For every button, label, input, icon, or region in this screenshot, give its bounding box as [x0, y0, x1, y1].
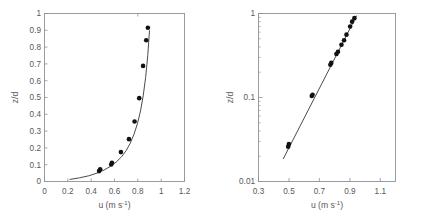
- y-axis-title-right: z/d: [225, 92, 235, 104]
- y-tick-label: 0.6: [30, 77, 42, 86]
- x-axis-title-close: ): [340, 200, 343, 210]
- y-tick-label: 0.4: [30, 110, 42, 119]
- x-axis-title-close: ): [128, 200, 131, 210]
- x-ticks-right: [259, 178, 381, 182]
- data-point: [141, 64, 146, 69]
- x-tick-label: 1: [159, 187, 164, 196]
- x-axis-title-main: u (m s: [98, 200, 122, 210]
- y-tick-labels-left: 0 0.1 0.2 0.3 0.4 0.5 0.6 0.7 0.8 0.9 1: [30, 9, 42, 186]
- plot-frame-right: [259, 14, 396, 182]
- y-tick-label: 0.7: [30, 60, 42, 69]
- y-tick-label: 0.5: [30, 93, 42, 102]
- x-tick-labels-left: 0 0.2 0.4 0.6 0.8 1 1.2: [42, 187, 190, 196]
- fit-line-right: [283, 16, 357, 160]
- figure-container: 0 0.1 0.2 0.3 0.4 0.5 0.6 0.7 0.8 0.9 1 …: [0, 0, 426, 218]
- x-tick-label: 0.7: [314, 187, 326, 196]
- data-points-right: [286, 16, 357, 149]
- y-tick-labels-right: 0.01 0.1 1: [239, 9, 255, 186]
- data-point: [98, 167, 103, 172]
- x-ticks-left: [45, 14, 185, 182]
- chart-panel-right: 0.01 0.1 1 0.3 0.5 0.7 0.9 1.1 z/d u (m …: [213, 0, 426, 218]
- data-point: [110, 160, 115, 165]
- x-tick-label: 0.2: [62, 187, 74, 196]
- data-point: [119, 150, 124, 155]
- y-tick-label: 0.2: [30, 144, 42, 153]
- data-point: [342, 38, 347, 43]
- x-axis-title-left: u (m s-1): [98, 200, 130, 210]
- y-tick-label: 0.9: [30, 26, 42, 35]
- data-point: [344, 32, 349, 37]
- data-point: [310, 92, 315, 97]
- data-point: [339, 42, 344, 47]
- data-point: [348, 24, 353, 29]
- x-tick-label: 0.5: [283, 187, 295, 196]
- x-tick-label: 0.8: [132, 187, 144, 196]
- data-point: [329, 61, 334, 66]
- x-tick-label: 0: [42, 187, 47, 196]
- data-point: [352, 16, 357, 21]
- y-tick-label: 0.3: [30, 127, 42, 136]
- y-tick-label: 1: [250, 9, 255, 18]
- y-tick-label: 0.01: [239, 177, 255, 186]
- y-tick-label: 0.1: [30, 161, 42, 170]
- data-point: [137, 96, 142, 101]
- fit-curve-left: [70, 30, 150, 179]
- left-chart-svg: 0 0.1 0.2 0.3 0.4 0.5 0.6 0.7 0.8 0.9 1 …: [0, 0, 213, 218]
- x-tick-label: 1.2: [179, 187, 191, 196]
- y-tick-label: 0.8: [30, 43, 42, 52]
- data-point: [132, 119, 137, 124]
- x-tick-labels-right: 0.3 0.5 0.7 0.9 1.1: [253, 187, 387, 196]
- x-tick-label: 0.9: [344, 187, 356, 196]
- x-tick-label: 0.3: [253, 187, 265, 196]
- y-tick-label: 0: [36, 177, 41, 186]
- data-point: [287, 142, 292, 147]
- plot-content-left: [70, 25, 151, 179]
- chart-panel-left: 0 0.1 0.2 0.3 0.4 0.5 0.6 0.7 0.8 0.9 1 …: [0, 0, 213, 218]
- x-axis-title-main: u (m s: [311, 200, 335, 210]
- data-point: [144, 38, 149, 43]
- y-tick-label: 0.1: [244, 93, 256, 102]
- plot-frame-left: [45, 14, 185, 182]
- y-axis-title-left: z/d: [10, 92, 20, 104]
- x-tick-label: 0.6: [109, 187, 121, 196]
- y-tick-label: 1: [36, 9, 41, 18]
- x-axis-title-right: u (m s-1): [311, 200, 343, 210]
- data-point: [127, 137, 132, 142]
- plot-content-right: [283, 16, 357, 160]
- x-tick-label: 0.4: [86, 187, 98, 196]
- data-point: [336, 50, 341, 55]
- data-point: [146, 25, 151, 30]
- right-chart-svg: 0.01 0.1 1 0.3 0.5 0.7 0.9 1.1 z/d u (m …: [213, 0, 426, 218]
- x-tick-label: 1.1: [375, 187, 387, 196]
